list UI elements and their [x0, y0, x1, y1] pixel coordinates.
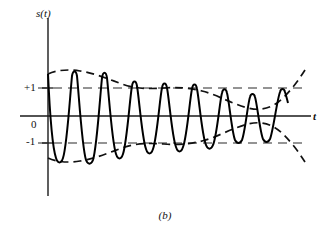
envelope-upper-curve [48, 70, 305, 109]
y-tick-label-zero: 0 [31, 119, 37, 130]
figure-root: s(t) t +1 0 -1 (b) [0, 0, 330, 237]
y-tick-label-plus-one: +1 [24, 82, 36, 93]
y-tick-label-minus-one: -1 [26, 136, 35, 147]
y-axis-label: s(t) [36, 8, 51, 19]
signal-plot [0, 0, 330, 237]
x-axis-label: t [313, 111, 316, 122]
figure-caption: (b) [0, 209, 330, 221]
carrier-waveform [48, 72, 288, 164]
